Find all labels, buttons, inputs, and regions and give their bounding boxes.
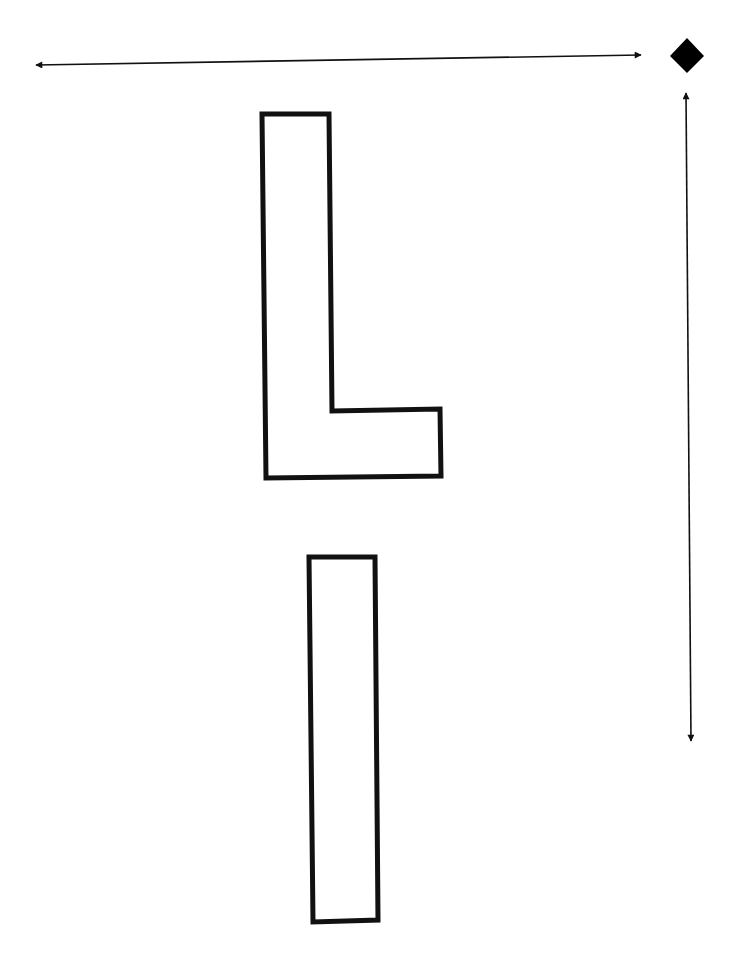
letter-l-outline — [262, 114, 441, 478]
vertical-arrow — [686, 93, 691, 741]
letter-i-outline — [309, 557, 378, 922]
diamond-marker-icon — [670, 38, 704, 73]
horizontal-arrow — [36, 55, 641, 65]
diagram-canvas — [0, 0, 742, 963]
